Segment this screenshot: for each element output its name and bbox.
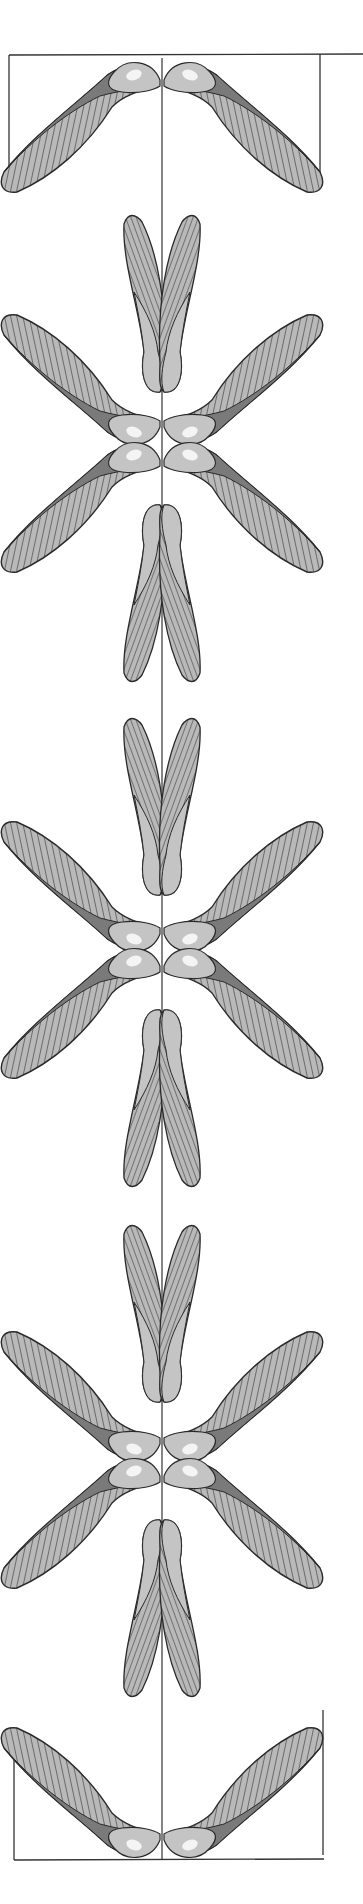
samara-illustration	[0, 0, 363, 1904]
